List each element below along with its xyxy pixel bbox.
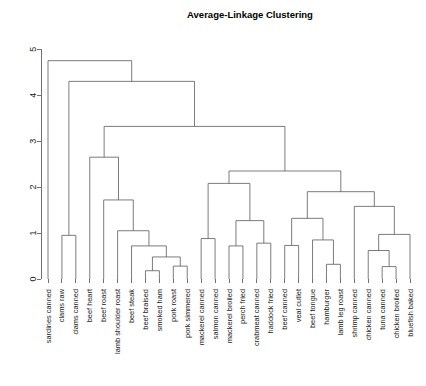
leaf-label: pork roast: [169, 289, 178, 322]
leaf-label: beef steak: [127, 289, 136, 323]
dendrogram-link: [307, 192, 374, 219]
y-axis: 012345: [28, 47, 41, 282]
dendrogram-link: [69, 81, 195, 235]
dendrogram-link: [90, 157, 119, 279]
dendrogram-link: [201, 239, 215, 279]
leaf-label: hamburger: [322, 288, 331, 324]
leaf-label: tuna canned: [378, 289, 387, 330]
leaf-label: mackerel canned: [197, 289, 206, 345]
y-tick-label: 1: [28, 231, 38, 236]
leaf-label: mackerel broiled: [225, 289, 234, 343]
leaf-label: bluefish baked: [406, 289, 415, 337]
dendrogram-links: [48, 61, 410, 279]
leaf-label: veal cutlet: [294, 289, 303, 322]
leaf-label: shrimp canned: [350, 289, 359, 337]
leaf-label: sardines canned: [44, 289, 53, 343]
leaf-label: haddock fried: [266, 289, 275, 333]
leaf-label: lamb shoulder roast: [113, 289, 122, 354]
dendrogram-svg: Average-Linkage Clustering 012345 sardin…: [0, 0, 426, 386]
dendrogram-link: [145, 271, 159, 279]
leaf-label: crabmeat canned: [252, 289, 261, 346]
leaf-label: beef braised: [141, 289, 150, 330]
leaf-label: beef canned: [280, 289, 289, 330]
leaf-label: perch fried: [238, 289, 247, 324]
y-tick-label: 0: [28, 276, 38, 281]
leaf-label: clams raw: [57, 288, 66, 322]
dendrogram-link: [354, 206, 394, 279]
dendrogram-link: [152, 257, 180, 271]
dendrogram-link: [379, 234, 410, 279]
leaf-label: smoked ham: [155, 289, 164, 331]
dendrogram-link: [292, 218, 323, 245]
leaf-label: pork simmered: [183, 289, 192, 338]
leaf-label: beef roast: [99, 289, 108, 322]
dendrogram-link: [173, 266, 187, 279]
leaf-label: chicken canned: [364, 289, 373, 340]
y-tick-label: 5: [28, 47, 38, 52]
leaf-label: clams canned: [71, 289, 80, 335]
dendrogram-link: [285, 245, 299, 279]
leaf-label: beef heart: [85, 289, 94, 322]
dendrogram-link: [229, 171, 341, 192]
leaf-label: salmon canned: [211, 289, 220, 339]
dendrogram-link: [62, 235, 76, 279]
dendrogram-link: [118, 231, 149, 279]
dendrogram-link: [104, 126, 285, 171]
dendrogram-link: [229, 246, 243, 279]
dendrogram-link: [132, 246, 167, 279]
dendrogram-link: [236, 221, 264, 246]
x-axis-ticks: [48, 279, 410, 283]
dendrogram-link: [326, 264, 340, 279]
dendrogram-link: [257, 243, 271, 279]
dendrogram-link: [368, 251, 389, 279]
dendrogram-link: [104, 200, 134, 279]
leaf-label: chicken broiled: [392, 289, 401, 338]
leaf-label: lamb leg roast: [336, 289, 345, 335]
dendrogram-link: [313, 240, 334, 279]
dendrogram-figure: Average-Linkage Clustering 012345 sardin…: [0, 0, 426, 386]
leaf-label: beef tongue: [308, 289, 317, 328]
y-tick-label: 3: [28, 139, 38, 144]
y-tick-label: 4: [28, 93, 38, 98]
dendrogram-link: [208, 183, 250, 238]
leaf-labels: sardines cannedclams rawclams cannedbeef…: [44, 288, 415, 354]
dendrogram-link: [382, 267, 396, 279]
y-tick-label: 2: [28, 185, 38, 190]
chart-title: Average-Linkage Clustering: [187, 9, 313, 20]
